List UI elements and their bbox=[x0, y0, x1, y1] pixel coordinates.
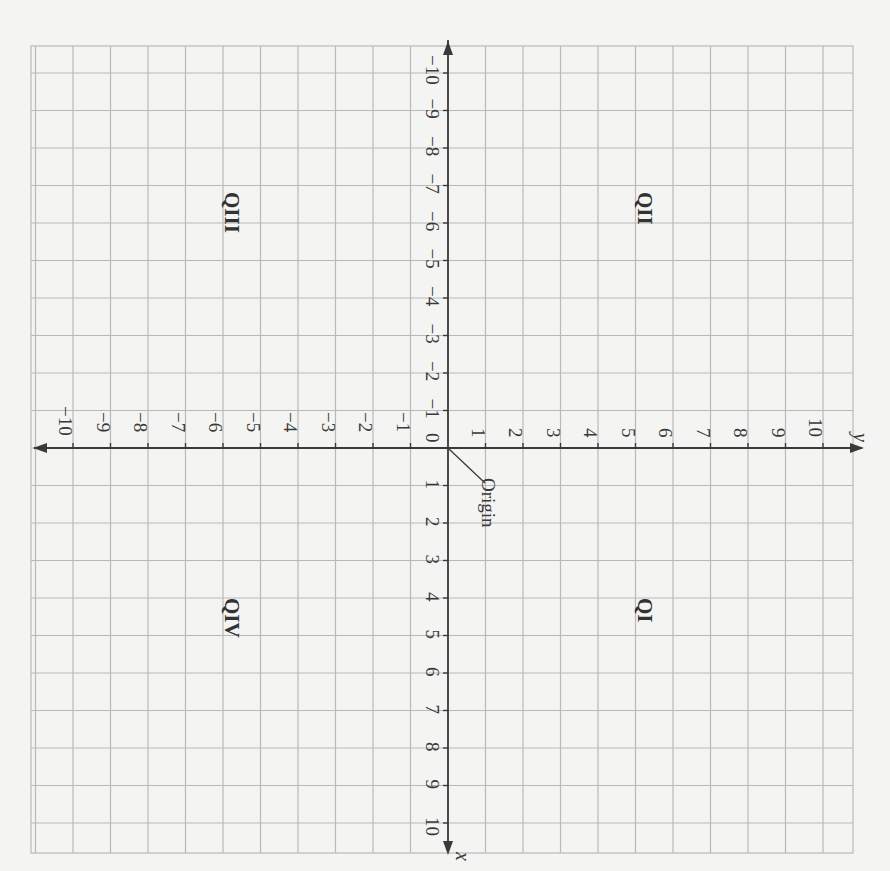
x-tick-label: −9 bbox=[422, 99, 443, 119]
x-tick-label: −5 bbox=[422, 249, 443, 269]
y-tick-label: −10 bbox=[55, 406, 76, 436]
x-tick-label: −3 bbox=[422, 324, 443, 344]
quadrant-label-q1: QI bbox=[633, 598, 657, 623]
x-tick-label: 5 bbox=[422, 630, 443, 640]
y-axis-positive-arrow-icon bbox=[850, 443, 864, 453]
y-tick-label: −2 bbox=[355, 412, 376, 432]
x-axis-name: x bbox=[452, 851, 474, 861]
x-tick-label: −1 bbox=[422, 399, 443, 419]
y-tick-label: −4 bbox=[280, 412, 301, 433]
x-tick-label: 10 bbox=[422, 817, 443, 836]
y-tick-label: 9 bbox=[768, 428, 789, 438]
coordinate-plane: 1−12−23−34−45−56−67−78−89−910−101−12−23−… bbox=[0, 0, 890, 871]
x-tick-label: 3 bbox=[422, 555, 443, 565]
axes bbox=[33, 40, 864, 855]
x-tick-label: −6 bbox=[422, 211, 443, 231]
grid bbox=[31, 46, 853, 853]
y-tick-label: −7 bbox=[168, 412, 189, 432]
x-tick-label: 6 bbox=[422, 667, 443, 677]
y-tick-label: −6 bbox=[205, 412, 226, 432]
y-tick-label: 1 bbox=[468, 428, 489, 438]
y-tick-label: 6 bbox=[655, 428, 676, 438]
x-axis-negative-arrow-icon bbox=[443, 41, 453, 55]
y-axis-name: y bbox=[849, 431, 872, 442]
x-tick-label: −2 bbox=[422, 361, 443, 381]
x-tick-label: −10 bbox=[422, 55, 443, 85]
y-tick-label: 4 bbox=[580, 428, 601, 438]
x-tick-label: 8 bbox=[422, 742, 443, 752]
y-tick-label: 10 bbox=[805, 418, 826, 437]
x-tick-label: −7 bbox=[422, 174, 443, 194]
quadrant-label-q2: QII bbox=[633, 192, 657, 225]
quadrant-label-q3: QIII bbox=[220, 192, 244, 233]
y-tick-label: −9 bbox=[93, 412, 114, 432]
x-tick-label: 7 bbox=[422, 705, 443, 715]
y-tick-label: 8 bbox=[730, 428, 751, 438]
x-tick-label: 2 bbox=[422, 517, 443, 527]
x-tick-label: 9 bbox=[422, 780, 443, 790]
x-tick-label: 4 bbox=[422, 592, 443, 602]
x-tick-label: −4 bbox=[422, 286, 443, 307]
origin-callout: Origin bbox=[478, 478, 499, 528]
y-tick-label: −8 bbox=[130, 412, 151, 432]
y-tick-label: 7 bbox=[693, 428, 714, 438]
grid-border bbox=[31, 46, 853, 853]
y-tick-label: 2 bbox=[505, 428, 526, 438]
y-tick-label: −3 bbox=[318, 412, 339, 432]
y-tick-label: −1 bbox=[393, 412, 414, 432]
quadrant-label-q4: QIV bbox=[220, 598, 244, 638]
x-tick-label: −8 bbox=[422, 136, 443, 156]
x-tick-label: 1 bbox=[422, 480, 443, 490]
origin-label: 0 bbox=[422, 433, 443, 443]
y-tick-label: 5 bbox=[618, 428, 639, 438]
y-tick-label: 3 bbox=[543, 428, 564, 438]
y-tick-label: −5 bbox=[243, 412, 264, 432]
